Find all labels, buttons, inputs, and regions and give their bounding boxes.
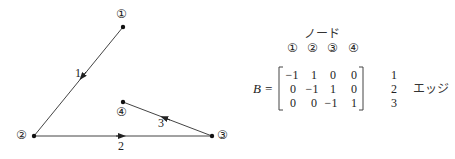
matrix-node-label-2: ② [307,42,318,54]
node-3-dot [210,134,214,138]
node-header: ノード [304,28,340,40]
matrix-cell: 0 [325,69,341,81]
matrix-cell: 0 [346,69,362,81]
matrix-cell: 1 [346,97,362,109]
edge-1 [34,27,123,136]
edge-2-label: 2 [118,140,124,152]
matrix-cell: −1 [323,97,339,109]
matrix-cell: −1 [284,69,300,81]
directed-graph [0,0,240,159]
matrix-node-label-3: ③ [327,42,338,54]
node-1-dot [121,25,125,29]
edge-header: エッジ [413,83,449,95]
edge-3-label: 3 [158,117,164,129]
matrix-node-label-4: ④ [348,42,359,54]
node-3-label: ③ [217,129,228,141]
matrix-node-label-1: ① [287,42,298,54]
edge-1-label: 1 [75,67,81,79]
matrix-cell: 0 [346,83,362,95]
matrix-cell: 0 [285,83,301,95]
node-2-dot [32,134,36,138]
matrix-edge-label-2: 2 [391,83,397,95]
matrix-edge-label-1: 1 [391,69,397,81]
matrix-cell: 0 [285,97,301,109]
matrix-cell: 1 [325,83,341,95]
matrix-lhs-text: B = [253,81,273,96]
matrix-cell: 0 [306,97,322,109]
node-2-label: ② [16,129,27,141]
matrix-edge-label-3: 3 [391,97,397,109]
edge-3 [123,102,212,136]
matrix-lhs: B = [253,82,273,95]
node-4-label: ④ [116,106,127,118]
node-4-dot [121,100,125,104]
node-dots [32,25,214,138]
node-1-label: ① [116,8,127,20]
matrix-cell: 1 [306,69,322,81]
matrix-cell: −1 [304,83,320,95]
